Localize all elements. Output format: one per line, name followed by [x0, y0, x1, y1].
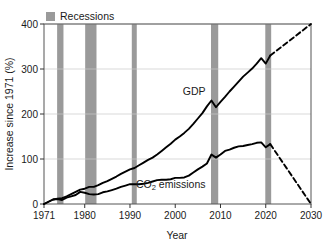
y-tick-label: 0: [32, 199, 38, 210]
x-axis-title: Year: [166, 229, 188, 241]
y-axis-ticks: 0100200300400: [21, 19, 44, 210]
co2-label-main: CO: [136, 178, 152, 190]
chart-svg: 0100200300400 19711980199020002010202020…: [0, 0, 332, 246]
x-tick-label: 2020: [255, 210, 278, 221]
x-tick-label: 2000: [164, 210, 187, 221]
y-tick-label: 100: [21, 154, 38, 165]
recession-legend-label: Recessions: [60, 10, 114, 22]
x-tick-label: 1971: [33, 210, 56, 221]
x-tick-label: 1980: [74, 210, 97, 221]
x-tick-label: 2010: [209, 210, 232, 221]
legend: Recessions: [46, 10, 114, 22]
y-tick-label: 300: [21, 64, 38, 75]
chart-figure: 0100200300400 19711980199020002010202020…: [0, 0, 332, 246]
x-tick-label: 1990: [119, 210, 142, 221]
y-axis-title: Increase since 1971 (%): [3, 57, 15, 170]
x-axis-ticks: 1971198019902000201020202030: [33, 204, 323, 221]
gdp-series-label: GDP: [183, 85, 206, 97]
recession-legend-swatch: [46, 12, 55, 21]
y-tick-label: 400: [21, 19, 38, 30]
co2-label-rest: emissions: [156, 178, 206, 190]
y-tick-label: 200: [21, 109, 38, 120]
x-tick-label: 2030: [300, 210, 323, 221]
